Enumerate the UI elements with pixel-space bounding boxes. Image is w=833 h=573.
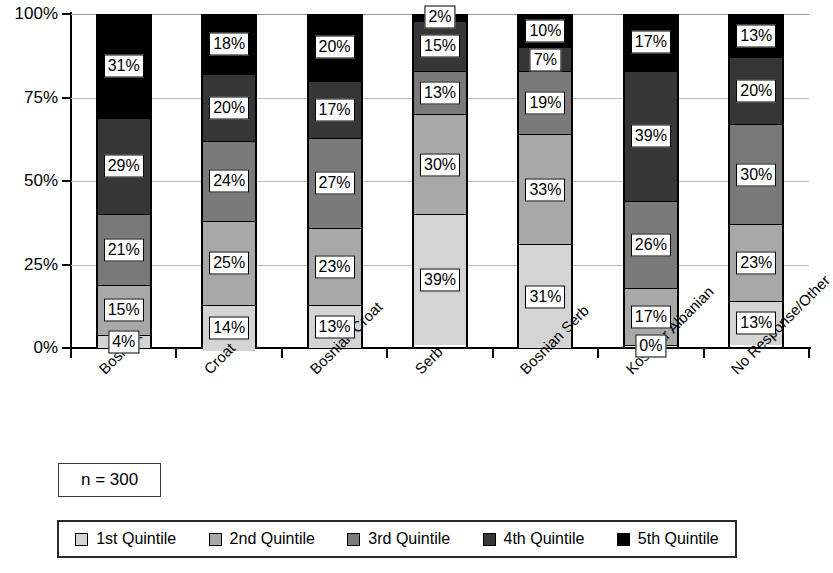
bar-segment[interactable]: 10%: [519, 14, 571, 47]
bar-segment-label: 18%: [209, 33, 249, 56]
bar-segment[interactable]: 39%: [625, 71, 677, 201]
bar-segment[interactable]: 20%: [203, 74, 255, 141]
bar-segment-label: 17%: [631, 305, 671, 328]
stacked-bar[interactable]: 31%29%21%15%4%: [96, 14, 152, 348]
y-axis-label: 25%: [2, 256, 58, 273]
bar-segment-label: 20%: [315, 36, 355, 59]
chart-legend: 1st Quintile2nd Quintile3rd Quintile4th …: [57, 520, 737, 558]
bar-segment[interactable]: 20%: [730, 57, 782, 124]
sample-size-note: n = 300: [58, 463, 161, 497]
bar-segment[interactable]: 18%: [203, 14, 255, 74]
legend-item[interactable]: 2nd Quintile: [209, 531, 315, 547]
y-axis-label: 50%: [2, 172, 58, 189]
x-axis-tick: [703, 349, 705, 358]
bar-segment-label: 31%: [104, 54, 144, 77]
legend-item[interactable]: 1st Quintile: [75, 531, 176, 547]
bar-segment[interactable]: 15%: [98, 285, 150, 335]
y-axis-label-wrap: 0%: [0, 339, 58, 356]
bar-segment[interactable]: 26%: [625, 201, 677, 288]
bar-segment-label: 29%: [104, 155, 144, 178]
legend-label: 4th Quintile: [504, 531, 585, 547]
y-axis-label-wrap: 100%: [0, 5, 58, 22]
bar-segment-label: 14%: [209, 317, 249, 340]
bar-segment[interactable]: 17%: [625, 14, 677, 71]
bar-segment-label: 30%: [736, 163, 776, 186]
x-axis-tick: [597, 349, 599, 358]
bar-segment[interactable]: 23%: [309, 228, 361, 305]
bar-segment[interactable]: 30%: [414, 114, 466, 214]
y-axis-label-wrap: 75%: [0, 89, 58, 106]
bar-segment[interactable]: 25%: [203, 221, 255, 305]
bar-segment-label: 7%: [530, 48, 561, 71]
bar-segment[interactable]: 17%: [309, 81, 361, 138]
legend-swatch-icon: [209, 533, 222, 546]
bar-segment[interactable]: 13%: [730, 14, 782, 57]
legend-swatch-icon: [347, 533, 360, 546]
bar-segment[interactable]: 30%: [730, 124, 782, 224]
bar-segment-label: 25%: [209, 252, 249, 275]
bar-segment[interactable]: 29%: [98, 118, 150, 215]
bar-segment-label: 27%: [315, 172, 355, 195]
bar-segment-label: 15%: [420, 35, 460, 58]
bar-segment[interactable]: 39%: [414, 214, 466, 344]
legend-label: 3rd Quintile: [368, 531, 450, 547]
bar-segment-label: 2%: [424, 6, 455, 29]
x-axis-tick: [175, 349, 177, 358]
bar-segment-label: 17%: [631, 31, 671, 54]
bar-segment-label: 17%: [315, 98, 355, 121]
bar-segment[interactable]: 24%: [203, 141, 255, 221]
bar-segment[interactable]: 20%: [309, 14, 361, 81]
legend-item[interactable]: 4th Quintile: [483, 531, 585, 547]
bar-segment-label: 20%: [209, 97, 249, 120]
stacked-bar[interactable]: 2%15%13%30%39%: [412, 14, 468, 348]
stacked-bar[interactable]: 13%20%30%23%13%: [728, 14, 784, 348]
y-axis-label: 100%: [2, 5, 58, 22]
bar-segment-label: 10%: [525, 19, 565, 42]
bar-segment-label: 39%: [420, 268, 460, 291]
stacked-bar[interactable]: 20%17%27%23%13%: [307, 14, 363, 348]
legend-item[interactable]: 5th Quintile: [617, 531, 719, 547]
legend-swatch-icon: [617, 533, 630, 546]
bar-segment[interactable]: 0%: [625, 345, 677, 346]
legend-swatch-icon: [75, 533, 88, 546]
bar-segment-label: 4%: [108, 330, 139, 353]
bar-segment-label: 31%: [525, 285, 565, 308]
bar-segment[interactable]: 13%: [414, 71, 466, 114]
bar-segment-label: 39%: [631, 125, 671, 148]
bar-segment-label: 20%: [736, 80, 776, 103]
y-axis-label-wrap: 25%: [0, 256, 58, 273]
stacked-bar[interactable]: 17%39%26%17%0%: [623, 14, 679, 348]
legend-item[interactable]: 3rd Quintile: [347, 531, 450, 547]
bar-segment-label: 13%: [736, 312, 776, 335]
bar-segment-label: 13%: [315, 315, 355, 338]
bar-segment[interactable]: 27%: [309, 138, 361, 228]
stacked-bar[interactable]: 18%20%24%25%14%: [201, 14, 257, 348]
y-axis-label-wrap: 50%: [0, 172, 58, 189]
bar-segment[interactable]: 33%: [519, 134, 571, 244]
bar-segment-label: 30%: [420, 153, 460, 176]
bar-segment-label: 23%: [736, 252, 776, 275]
stacked-bar[interactable]: 10%7%19%33%31%: [517, 14, 573, 348]
bar-segment-label: 21%: [104, 238, 144, 261]
bar-segment[interactable]: 7%: [519, 47, 571, 70]
bar-segment[interactable]: 19%: [519, 71, 571, 134]
x-axis-tick: [492, 349, 494, 358]
legend-label: 1st Quintile: [96, 531, 176, 547]
y-axis-label: 0%: [2, 339, 58, 356]
bar-segment-label: 13%: [420, 81, 460, 104]
legend-label: 5th Quintile: [638, 531, 719, 547]
y-axis-label: 75%: [2, 89, 58, 106]
bar-segment[interactable]: 21%: [98, 214, 150, 284]
bar-segment-label: 13%: [736, 24, 776, 47]
bar-segment-label: 19%: [525, 91, 565, 114]
bar-segment-label: 33%: [525, 178, 565, 201]
bar-segment[interactable]: 23%: [730, 224, 782, 301]
x-axis-tick: [386, 349, 388, 358]
x-axis-tick: [70, 349, 72, 358]
bar-segment-label: 15%: [104, 299, 144, 322]
bar-segment[interactable]: 2%: [414, 14, 466, 21]
bar-segment[interactable]: 31%: [98, 14, 150, 118]
legend-swatch-icon: [483, 533, 496, 546]
bar-segment-label: 24%: [209, 170, 249, 193]
